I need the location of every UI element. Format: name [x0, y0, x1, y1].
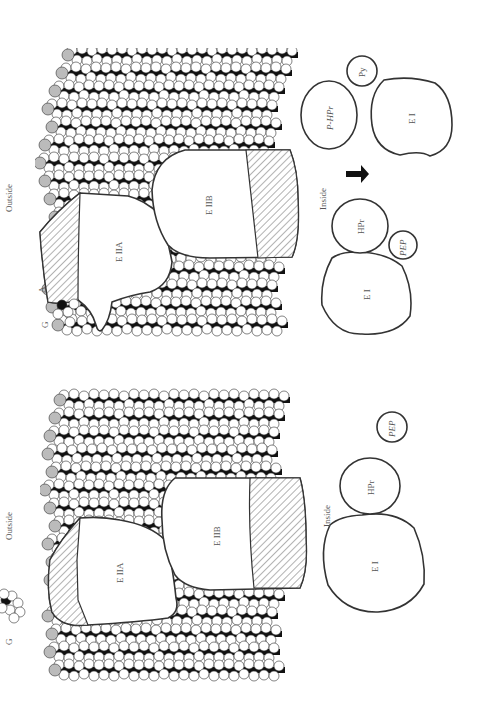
e2b-hatch-bottom	[250, 478, 307, 588]
g-molecule-bottom	[0, 589, 25, 623]
label-a-top: A	[37, 286, 47, 293]
label-pep-top: PEP	[398, 239, 408, 257]
label-e2b-top: E IIB	[204, 195, 214, 215]
label-outside-top: Outside	[4, 184, 14, 212]
label-p-hpr: P-HPr	[325, 106, 335, 131]
label-outside-bottom: Outside	[4, 512, 14, 540]
reaction-arrow	[346, 165, 369, 183]
pts-membrane-diagram: Outside G E IIA E IIB Inside E I HPr PEP	[0, 0, 477, 719]
panel-bottom: Outside G E IIA E IIB Inside E I HPr PEP	[0, 389, 424, 681]
label-hpr-bottom: HPr	[366, 480, 376, 495]
label-e2a-top: E IIA	[114, 241, 124, 262]
label-inside-bottom: Inside	[322, 505, 332, 527]
label-e1-left-top: E I	[362, 289, 372, 300]
label-e2b-bottom: E IIB	[212, 526, 222, 546]
label-e1-bottom: E I	[370, 561, 380, 572]
label-pep-bottom: PEP	[387, 420, 397, 438]
label-hpr-top: HPr	[356, 219, 366, 234]
panel-top: Outside A G E IIA E IIB Inside E I HPr P…	[4, 44, 452, 336]
label-e2a-bottom: E IIA	[115, 562, 125, 583]
label-e1-right: E I	[407, 113, 417, 124]
label-g-bottom: G	[4, 638, 14, 645]
label-g-top: G	[40, 321, 50, 328]
label-py: Py	[357, 67, 367, 77]
label-inside-top: Inside	[318, 188, 328, 210]
